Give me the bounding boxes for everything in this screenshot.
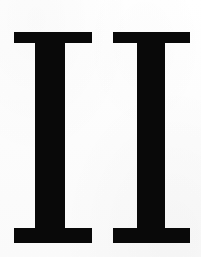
scanned-image-canvas: II xyxy=(0,0,201,257)
second-i-stem xyxy=(137,41,165,230)
second-i-bottom-serif xyxy=(113,228,190,243)
second-i-icon xyxy=(101,0,201,257)
numeral-glyph-first-i xyxy=(0,0,101,257)
first-i-icon xyxy=(0,0,101,257)
numeral-glyph-second-i xyxy=(101,0,201,257)
first-i-stem xyxy=(35,41,65,230)
first-i-bottom-serif xyxy=(14,228,92,243)
